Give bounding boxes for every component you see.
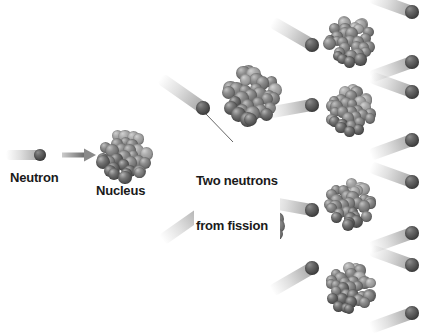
neutron-particle-icon [405,133,419,147]
nucleon [331,212,342,223]
neutron-particle-icon [305,98,319,112]
neutron-particle-icon [196,101,210,115]
neutron-particle-icon [405,226,419,240]
neutron-particle-icon [405,258,419,272]
nucleon [344,126,354,136]
nucleus-label: Nucleus [96,183,145,198]
nucleon [365,278,375,288]
nucleon [244,113,257,126]
neutron-particle-icon [405,5,419,19]
nucleus-cluster-icon [325,86,375,136]
neutron-particle-icon [305,261,319,275]
neutron-particle-icon [405,85,419,99]
nucleon [344,304,355,315]
nucleon [134,167,145,178]
neutron-particle-icon [405,306,419,320]
nucleon [344,56,356,68]
fission-label-line2: from fission [196,218,278,233]
neutron-particle-icon [405,55,419,69]
nucleus-cluster-icon [325,263,375,313]
nucleon [359,297,370,308]
nucleon [354,53,366,65]
nucleus-cluster-icon [98,130,152,184]
neutron-label: Neutron [10,170,58,185]
nucleus-cluster-icon [325,179,375,229]
fission-label-line1: Two neutrons [196,173,278,188]
fission-diagram: Neutron Nucleus Two neutrons from fissio… [0,0,435,336]
neutron-particle-icon [405,175,419,189]
nucleus-cluster-icon [325,16,375,66]
neutron-particle-icon [305,203,319,217]
nucleon [323,37,336,50]
nucleon [342,219,354,231]
two-neutrons-from-fission-label: Two neutrons from fission [194,142,280,264]
neutron-particle-icon [34,149,46,161]
neutron-particle-icon [305,38,319,52]
nucleon [365,113,375,123]
